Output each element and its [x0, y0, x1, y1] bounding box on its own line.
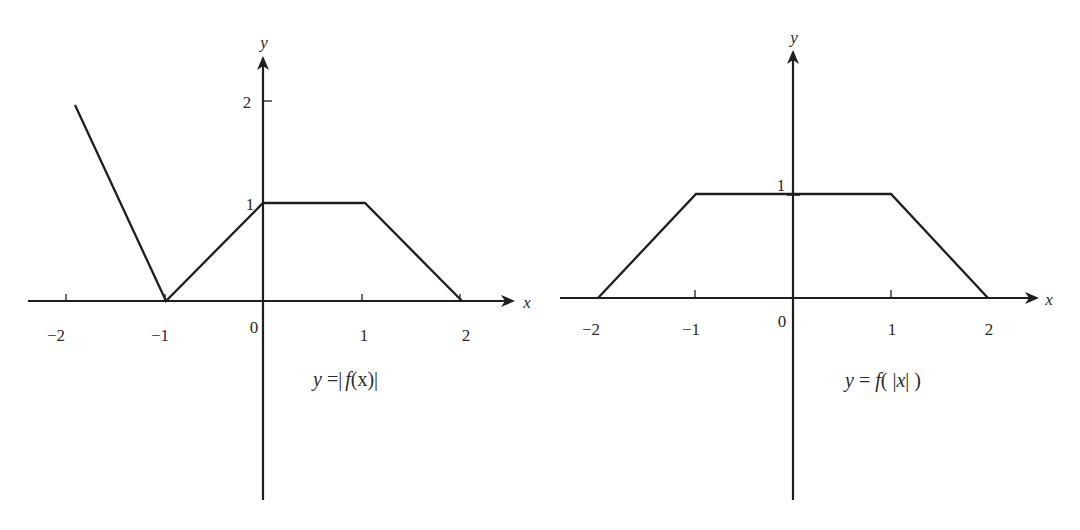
- left-x-tick-label-1: 1: [360, 326, 369, 345]
- left-curve-abs-f: [75, 105, 462, 301]
- left-y-tick-label-2: 2: [243, 93, 252, 112]
- left-x-tick-label-2: 2: [462, 326, 471, 345]
- right-x-axis-label: x: [1044, 290, 1053, 309]
- left-y-tick-label-1: 1: [246, 195, 255, 214]
- left-y-axis-label: y: [258, 33, 268, 52]
- right-origin-label: 0: [778, 312, 787, 331]
- right-x-tick-label-neg2: −2: [582, 320, 600, 339]
- right-caption: y = f( |x| ): [843, 369, 921, 392]
- left-x-tick-label-neg2: −2: [47, 326, 65, 345]
- figure: −2 −1 0 1 2 2 1 y x y =|f(x)| −2 −1 0 1 …: [0, 0, 1080, 530]
- left-origin-label: 0: [250, 318, 259, 337]
- left-caption: y =|f(x)|: [311, 368, 378, 391]
- left-x-axis-label: x: [522, 293, 531, 312]
- left-x-tick-label-neg1: −1: [151, 326, 169, 345]
- right-y-axis-label: y: [788, 28, 798, 47]
- right-x-tick-label-1: 1: [888, 320, 897, 339]
- right-x-tick-label-2: 2: [985, 320, 994, 339]
- right-x-tick-label-neg1: −1: [682, 320, 700, 339]
- right-plot: −2 −1 0 1 2 1 y x y = f( |x| ): [560, 28, 1053, 500]
- left-plot: −2 −1 0 1 2 2 1 y x y =|f(x)|: [28, 33, 531, 500]
- right-y-tick-label-1: 1: [777, 176, 786, 195]
